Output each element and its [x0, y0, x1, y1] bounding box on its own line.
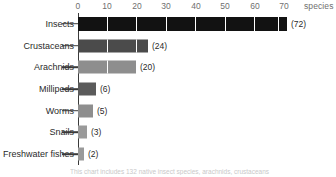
- axis-tick-30: 30: [161, 1, 171, 11]
- bar-row-insects: Insects (72): [0, 13, 336, 35]
- value-label-arachnids: (20): [140, 62, 155, 72]
- value-label-insects: (72): [291, 19, 306, 29]
- axis-tick-70: 70: [279, 1, 289, 11]
- leader-line-millipeds: [62, 88, 78, 90]
- bar-row-crustaceans: Crustaceans (24): [0, 35, 336, 57]
- leader-line-arachnids: [62, 66, 78, 68]
- bar-worms: [78, 104, 93, 117]
- axis-tick-0: 0: [76, 1, 81, 11]
- chart-x-axis: 0 10 20 30 40 50 60 70 species: [0, 0, 336, 14]
- axis-tick-50: 50: [220, 1, 230, 11]
- chart-plot-area: Insects (72) Crustaceans (24): [0, 13, 336, 165]
- value-label-crustaceans: (24): [152, 41, 167, 51]
- bar-row-millipeds: Millipeds (6): [0, 78, 336, 100]
- axis-tick-10: 10: [102, 1, 112, 11]
- value-label-snails: (3): [91, 127, 101, 137]
- value-label-millipeds: (6): [100, 84, 110, 94]
- axis-tick-40: 40: [191, 1, 201, 11]
- leader-line-snails: [62, 131, 78, 133]
- bar-row-arachnids: Arachnids (20): [0, 56, 336, 78]
- chart-caption: This chart includes 132 native insect sp…: [70, 168, 336, 175]
- bar-millipeds: [78, 82, 96, 95]
- leader-line-worms: [62, 110, 78, 112]
- bar-row-snails: Snails (3): [0, 121, 336, 143]
- axis-tick-20: 20: [132, 1, 142, 11]
- horizontal-bar-chart: 0 10 20 30 40 50 60 70 species Insects (…: [0, 0, 336, 177]
- axis-tick-60: 60: [250, 1, 260, 11]
- leader-line-crustaceans: [62, 45, 78, 47]
- bar-crustaceans: [78, 39, 148, 52]
- bar-arachnids: [78, 61, 136, 74]
- value-label-freshwater-fishes: (2): [88, 149, 98, 159]
- bar-freshwater-fishes: [78, 147, 84, 160]
- bar-row-worms: Worms (5): [0, 100, 336, 122]
- leader-line-insects: [62, 23, 78, 25]
- bar-snails: [78, 126, 87, 139]
- bar-insects: [78, 17, 287, 31]
- bar-row-freshwater-fishes: Freshwater fishes (2): [0, 143, 336, 165]
- axis-unit-label: species: [304, 1, 334, 11]
- leader-line-freshwater-fishes: [62, 153, 78, 155]
- value-label-worms: (5): [97, 106, 107, 116]
